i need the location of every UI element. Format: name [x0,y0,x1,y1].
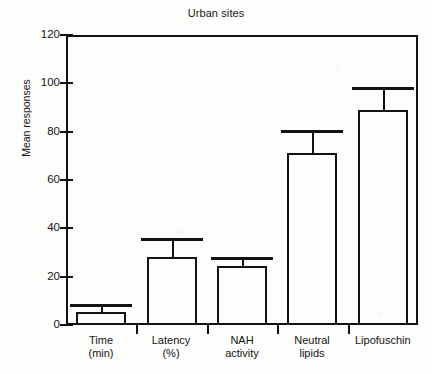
y-tick-label-40: 40 [26,221,60,233]
x-axis-separator-0 [136,325,138,334]
y-tick-label-120: 120 [26,28,60,40]
x-axis-separator-2 [277,325,279,334]
chart-title: Urban sites [0,7,432,19]
error-bar-cap-2 [211,257,273,260]
error-bar-stem-3 [312,130,314,153]
x-tick-label-1: Latency(%) [136,334,206,360]
error-bar-stem-4 [383,87,385,110]
bar-4 [358,110,408,325]
bar-0 [76,312,126,325]
y-axis-title: Mean responses [20,48,32,188]
x-tick-label-0: Time(min) [66,334,136,360]
bar-3 [287,153,337,325]
chart-figure: Urban sites Mean responses 0204060801001… [0,0,432,374]
y-tick-label-100: 100 [26,76,60,88]
error-bar-cap-4 [352,87,414,90]
y-tick-label-20: 20 [26,270,60,282]
error-bar-cap-0 [70,304,132,307]
y-tick-label-80: 80 [26,125,60,137]
bar-1 [147,257,197,325]
y-tick-label-0: 0 [26,318,60,330]
x-tick-label-4: Lipofuschin [337,334,429,347]
y-tick-label-60: 60 [26,173,60,185]
x-axis-separator-1 [207,325,209,334]
error-bar-cap-1 [141,238,203,241]
x-tick-label-2: NAHactivity [207,334,277,360]
x-axis-separator-3 [348,325,350,334]
bar-2 [217,266,267,325]
error-bar-cap-3 [281,130,343,133]
